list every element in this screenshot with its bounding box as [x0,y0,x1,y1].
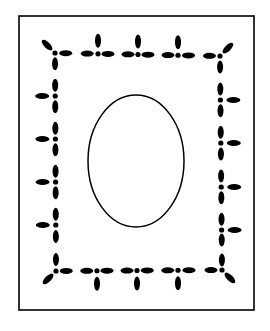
bead [80,268,93,274]
bead-node [53,179,58,184]
bead [162,52,175,58]
bead-node [95,51,100,56]
bottom-stem-leaf [175,276,181,290]
right-stem-leaf [227,184,241,190]
bead [219,254,225,267]
bead [217,61,223,74]
bead [218,104,224,117]
bead [218,126,224,139]
left-stem-leaf [36,222,50,228]
bead-node [53,93,58,98]
bottom-stem-leaf [94,277,100,291]
bead [183,267,196,273]
right-stem-leaf [228,227,242,233]
right-stem-leaf [227,140,241,146]
bead-node [53,222,58,227]
left-stem-leaf [36,179,50,185]
bead [122,51,135,57]
bead [203,53,216,59]
left-stem-leaf [35,136,49,142]
top-stem-leaf [175,35,181,49]
frame-illustration: Decorative rectangular frame with beaded… [0,0,270,331]
corner-leaf-top-left [40,38,54,52]
bead [121,268,134,274]
bead [52,122,58,135]
bead [53,253,59,266]
bead-node [219,184,224,189]
bead [218,148,224,161]
right-stem-leaf [226,97,240,103]
top-stem-leaf [95,34,101,48]
bead [52,143,58,156]
bead [52,57,58,70]
bead [53,165,59,178]
bead [52,79,58,92]
beaded-border [35,34,241,291]
bead [141,267,154,273]
bead [52,100,58,113]
bead-node [53,136,58,141]
bead [219,234,225,247]
bead-node [219,227,224,232]
bead [53,230,59,243]
bead [182,52,195,58]
bead-node [218,140,223,145]
corner-leaf-top-right [221,41,235,55]
bead [205,267,218,273]
bead-node [134,268,139,273]
bead-node [135,52,140,57]
corner-leaf-bottom-right [223,271,237,285]
bead [218,191,224,204]
bead [101,268,114,274]
bead [59,50,72,56]
bead [218,170,224,183]
bead-node [175,53,180,58]
bead-node [94,268,99,273]
bead [161,267,174,273]
corner-leaf-bottom-left [41,272,55,286]
bead-node [219,267,224,272]
bead [81,51,94,57]
bead-node [218,97,223,102]
bottom-stem-leaf [134,277,140,291]
bead-node [175,268,180,273]
bead-node [53,268,58,273]
top-stem-leaf [135,35,141,49]
frame-artwork [0,0,270,331]
bead [53,208,59,221]
bead [217,83,223,96]
bead [53,186,59,199]
bead [142,52,155,58]
bead-node [52,50,57,55]
bead [60,268,73,274]
bead [219,213,225,226]
bead-node [217,53,222,58]
center-oval [88,95,184,227]
bead [102,51,115,57]
left-stem-leaf [35,93,49,99]
